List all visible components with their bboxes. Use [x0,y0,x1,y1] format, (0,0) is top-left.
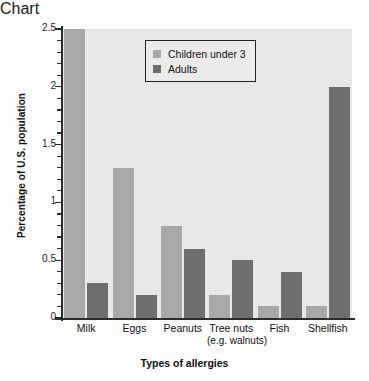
legend-item-children: Children under 3 [153,46,246,61]
y-tick-minor [57,225,62,226]
y-tick-minor [57,179,62,180]
y-tick-label: 1.5 [16,139,56,149]
bar-tree-nuts-children [209,295,230,318]
legend-swatch-children-icon [153,50,161,58]
x-tick-sublabel: (e.g. walnuts) [207,335,255,347]
bar-fish-adults [281,272,302,318]
y-tick-minor [57,98,62,99]
y-tick-minor [57,109,62,110]
x-tick-label: Fish [255,323,303,335]
y-tick-minor [57,283,62,284]
bar-fish-children [258,306,279,318]
y-tick-label: 2.5 [16,23,56,33]
bar-eggs-adults [136,295,157,318]
x-tick-label: Tree nuts(e.g. walnuts) [207,323,255,346]
y-tick-minor [57,63,62,64]
y-tick-minor [57,294,62,295]
y-tick-label: 2 [16,81,56,91]
y-tick-major [55,260,63,261]
y-tick-minor [57,132,62,133]
y-tick-label: 0.5 [16,254,56,264]
y-tick-minor [57,156,62,157]
y-tick-major [55,86,63,87]
y-tick-minor [57,52,62,53]
y-tick-minor [57,213,62,214]
y-tick-minor [57,248,62,249]
bar-milk-children [64,29,85,318]
legend-label-adults: Adults [168,63,197,75]
bar-tree-nuts-adults [232,260,253,318]
bar-shellfish-children [306,306,327,318]
bar-peanuts-children [161,226,182,318]
x-axis-title: Types of allergies [0,357,369,369]
x-tick-label: Eggs [110,323,158,335]
y-tick-minor [57,306,62,307]
y-tick-minor [57,40,62,41]
y-axis-line [61,26,63,321]
legend-swatch-adults-icon [153,65,161,73]
bar-chart: Percentage of U.S. population 00.511.522… [0,0,369,381]
y-tick-minor [57,121,62,122]
y-tick-minor [57,271,62,272]
bar-peanuts-adults [184,249,205,318]
bar-shellfish-adults [329,87,350,318]
y-tick-major [55,317,63,318]
legend-label-children: Children under 3 [168,48,246,60]
y-tick-minor [57,167,62,168]
bar-eggs-children [113,168,134,318]
y-tick-minor [57,190,62,191]
y-tick-minor [57,236,62,237]
legend-item-adults: Adults [153,61,246,76]
y-tick-major [55,202,63,203]
x-tick-label: Peanuts [159,323,207,335]
x-tick-label: Milk [62,323,110,335]
y-tick-label: 0 [16,312,56,322]
y-tick-minor [57,75,62,76]
x-axis-line [55,318,355,320]
x-tick-label: Shellfish [304,323,352,335]
y-tick-label: 1 [16,196,56,206]
bar-milk-adults [87,283,108,318]
legend: Children under 3 Adults [145,40,256,82]
y-tick-major [55,28,63,29]
y-tick-major [55,144,63,145]
